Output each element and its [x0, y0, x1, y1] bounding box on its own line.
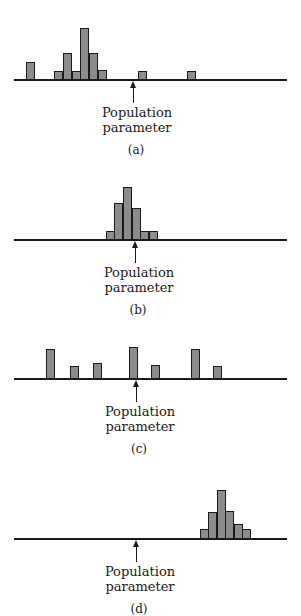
label-line-2: parameter: [89, 280, 189, 295]
histogram-bar: [140, 231, 149, 240]
population-parameter-label: Populationparameter: [90, 564, 190, 594]
histogram-bar: [187, 71, 196, 80]
arrow-shaft: [136, 386, 137, 402]
histogram-bar: [70, 366, 79, 379]
histogram-bar: [123, 187, 132, 240]
label-line-2: parameter: [90, 419, 190, 434]
panel-caption: (a): [116, 143, 156, 157]
histogram-bar: [149, 231, 158, 240]
label-line-1: Population: [89, 265, 189, 280]
histogram-bar: [129, 347, 138, 379]
arrow-shaft: [133, 87, 134, 103]
histogram-bar: [225, 511, 234, 539]
histogram-bar: [242, 529, 251, 539]
panel-caption: (d): [119, 602, 159, 616]
arrow-shaft: [136, 546, 137, 562]
histogram-bar: [138, 71, 147, 80]
label-line-1: Population: [87, 105, 187, 120]
panel-caption: (c): [119, 442, 159, 456]
histogram-bar: [54, 71, 63, 80]
histogram-bar: [80, 28, 89, 80]
histogram-bar: [151, 365, 160, 379]
label-line-1: Population: [90, 404, 190, 419]
histogram-bar: [191, 349, 200, 379]
panel-caption: (b): [118, 303, 158, 317]
population-parameter-label: Populationparameter: [87, 105, 187, 135]
arrow-shaft: [135, 247, 136, 263]
histogram-bar: [46, 349, 55, 379]
histogram-bar: [213, 366, 222, 379]
histogram-bar: [26, 62, 35, 80]
histogram-bar: [63, 53, 72, 80]
label-line-2: parameter: [90, 579, 190, 594]
population-parameter-label: Populationparameter: [89, 265, 189, 295]
label-line-1: Population: [90, 564, 190, 579]
population-parameter-label: Populationparameter: [90, 404, 190, 434]
histogram-bar: [114, 203, 123, 240]
histogram-bar: [89, 53, 98, 80]
histogram-bar: [98, 70, 107, 80]
histogram-bar: [93, 363, 102, 379]
label-line-2: parameter: [87, 120, 187, 135]
histogram-bar: [208, 512, 217, 539]
